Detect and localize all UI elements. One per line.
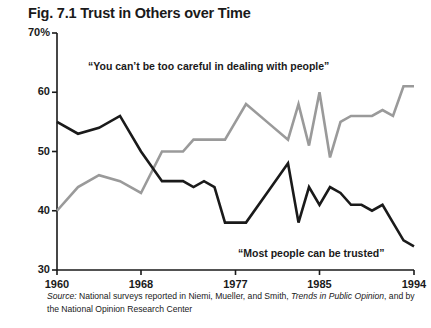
y-axis-tick-label: 40 [18, 204, 50, 216]
x-axis-tick-label: 1977 [213, 278, 259, 290]
source-work-title: Trends in Public Opinion [291, 291, 384, 301]
source-text-before: National surveys reported in Niemi, Muel… [77, 291, 291, 301]
x-axis-tick-label: 1985 [297, 278, 343, 290]
x-axis-tick-label: 1968 [118, 278, 164, 290]
source-label: Source: [47, 291, 77, 301]
y-axis-tick-label: 60 [18, 85, 50, 97]
source-note: Source: National surveys reported in Nie… [47, 290, 419, 317]
y-axis-tick-label: 70% [18, 26, 50, 38]
annotation-careful: “You can’t be too careful in dealing wit… [88, 60, 329, 72]
y-axis-tick-label: 50 [18, 145, 50, 157]
x-axis-tick-label: 1994 [391, 278, 431, 290]
x-axis-tick-label: 1960 [34, 278, 80, 290]
annotation-trusted: “Most people can be trusted” [238, 247, 384, 259]
y-axis-tick-label: 30 [18, 263, 50, 275]
